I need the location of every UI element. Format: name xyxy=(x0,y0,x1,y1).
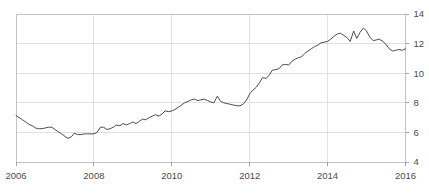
chart-canvas: 200620082010201220142016 468101214 xyxy=(0,0,429,194)
line-chart: 200620082010201220142016 468101214 xyxy=(0,0,429,194)
y-axis-label-12: 12 xyxy=(414,38,425,49)
y-axis-label-4: 4 xyxy=(414,156,419,167)
x-axis-label-2010: 2010 xyxy=(161,170,182,181)
y-axis-label-6: 6 xyxy=(414,127,419,138)
series-line-value xyxy=(16,28,406,138)
plot-frame xyxy=(16,14,406,162)
x-axis-label-2008: 2008 xyxy=(83,170,104,181)
x-axis-label-2014: 2014 xyxy=(317,170,338,181)
gridlines-group xyxy=(16,14,406,162)
x-axis-label-2006: 2006 xyxy=(5,170,26,181)
x-axis-label-2012: 2012 xyxy=(239,170,260,181)
tick-marks-group xyxy=(16,14,409,166)
y-axis-tick-labels: 468101214 xyxy=(414,8,425,167)
x-axis-label-2016: 2016 xyxy=(395,170,416,181)
y-axis-label-8: 8 xyxy=(414,97,419,108)
series-group xyxy=(16,28,406,138)
y-axis-label-10: 10 xyxy=(414,68,425,79)
plot-border xyxy=(16,14,406,162)
x-axis-tick-labels: 200620082010201220142016 xyxy=(5,170,416,181)
y-axis-label-14: 14 xyxy=(414,8,425,19)
